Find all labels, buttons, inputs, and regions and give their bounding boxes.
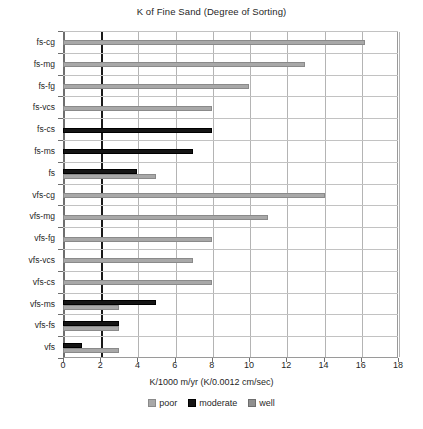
y-axis-label-vfs-fs: vfs-fs bbox=[35, 320, 55, 330]
x-axis-labels: 024681012141618 bbox=[0, 360, 423, 374]
legend-swatch-poor bbox=[148, 399, 156, 407]
bar-vfs-cs-poor bbox=[63, 280, 212, 285]
bar-fs-vcs-poor bbox=[63, 106, 212, 111]
x-axis-label-10: 10 bbox=[244, 360, 254, 370]
bar-vfs-fg-poor bbox=[63, 237, 212, 242]
chart-legend: poormoderatewell bbox=[0, 398, 423, 408]
category-separator bbox=[63, 118, 398, 119]
category-separator bbox=[63, 227, 398, 228]
y-axis-label-fs-fg: fs-fg bbox=[38, 81, 55, 91]
bar-fs-poor bbox=[63, 174, 156, 179]
bar-vfs-mg-poor bbox=[63, 215, 268, 220]
category-separator bbox=[63, 162, 398, 163]
y-axis-label-fs-cs: fs-cs bbox=[37, 124, 55, 134]
legend-label-poor: poor bbox=[159, 398, 177, 408]
category-separator bbox=[63, 205, 398, 206]
y-tick bbox=[58, 75, 63, 76]
y-axis-label-fs-vcs: fs-vcs bbox=[33, 102, 55, 112]
category-separator bbox=[63, 249, 398, 250]
y-tick bbox=[58, 162, 63, 163]
bar-fs-cg-poor bbox=[63, 40, 365, 45]
y-tick bbox=[58, 184, 63, 185]
x-axis-label-18: 18 bbox=[393, 360, 403, 370]
gridline-18 bbox=[399, 32, 400, 357]
y-tick bbox=[58, 140, 63, 141]
y-axis-label-vfs-cs: vfs-cs bbox=[33, 277, 55, 287]
bar-vfs-cg-poor bbox=[63, 193, 325, 198]
category-separator bbox=[63, 53, 398, 54]
category-separator bbox=[63, 140, 398, 141]
category-separator bbox=[63, 75, 398, 76]
y-tick bbox=[58, 293, 63, 294]
y-axis-label-vfs-ms: vfs-ms bbox=[30, 299, 55, 309]
y-axis-label-vfs: vfs bbox=[44, 342, 55, 352]
y-tick bbox=[58, 31, 63, 32]
category-separator bbox=[63, 96, 398, 97]
chart-figure: K of Fine Sand (Degree of Sorting) fs-cg… bbox=[0, 0, 423, 429]
bar-vfs-fs-poor bbox=[63, 326, 119, 331]
legend-label-moderate: moderate bbox=[199, 398, 237, 408]
legend-item-moderate[interactable]: moderate bbox=[188, 398, 237, 408]
y-tick bbox=[58, 118, 63, 119]
category-separator bbox=[63, 293, 398, 294]
y-tick bbox=[58, 227, 63, 228]
legend-item-well[interactable]: well bbox=[248, 398, 275, 408]
x-axis-label-12: 12 bbox=[281, 360, 291, 370]
y-tick bbox=[58, 205, 63, 206]
y-axis-label-fs-mg: fs-mg bbox=[34, 59, 55, 69]
y-axis-label-fs: fs bbox=[48, 168, 55, 178]
y-tick bbox=[58, 336, 63, 337]
x-axis-label-6: 6 bbox=[172, 360, 177, 370]
legend-label-well: well bbox=[259, 398, 275, 408]
legend-swatch-well bbox=[248, 399, 256, 407]
x-axis-label-0: 0 bbox=[60, 360, 65, 370]
y-axis-label-vfs-mg: vfs-mg bbox=[30, 211, 56, 221]
y-axis: fs-cgfs-mgfs-fgfs-vcsfs-csfs-msfsvfs-cgv… bbox=[0, 31, 63, 358]
y-axis-label-vfs-cg: vfs-cg bbox=[32, 190, 55, 200]
bar-vfs-ms-poor bbox=[63, 305, 119, 310]
bar-fs-cs-moderate bbox=[63, 128, 212, 133]
bar-fs-mg-poor bbox=[63, 62, 305, 67]
legend-item-poor[interactable]: poor bbox=[148, 398, 177, 408]
y-tick bbox=[58, 314, 63, 315]
y-tick bbox=[58, 249, 63, 250]
bars-layer bbox=[63, 31, 398, 358]
x-axis-title: K/1000 m/yr (K/0.0012 cm/sec) bbox=[0, 377, 423, 387]
chart-title: K of Fine Sand (Degree of Sorting) bbox=[0, 6, 423, 17]
x-axis-label-8: 8 bbox=[209, 360, 214, 370]
category-separator bbox=[63, 314, 398, 315]
category-separator bbox=[63, 31, 398, 32]
category-separator bbox=[63, 184, 398, 185]
legend-swatch-moderate bbox=[188, 399, 196, 407]
bar-fs-ms-moderate bbox=[63, 149, 193, 154]
category-separator bbox=[63, 271, 398, 272]
y-axis-label-vfs-vcs: vfs-vcs bbox=[29, 255, 55, 265]
x-axis-label-14: 14 bbox=[319, 360, 329, 370]
bar-fs-fg-poor bbox=[63, 84, 249, 89]
bar-vfs-poor bbox=[63, 348, 119, 353]
x-axis-label-4: 4 bbox=[135, 360, 140, 370]
category-separator bbox=[63, 336, 398, 337]
y-tick bbox=[58, 53, 63, 54]
y-tick bbox=[58, 271, 63, 272]
y-axis-label-vfs-fg: vfs-fg bbox=[34, 233, 55, 243]
bar-vfs-vcs-poor bbox=[63, 258, 193, 263]
y-axis-label-fs-ms: fs-ms bbox=[34, 146, 55, 156]
y-tick bbox=[58, 96, 63, 97]
x-axis-label-16: 16 bbox=[356, 360, 366, 370]
y-axis-label-fs-cg: fs-cg bbox=[37, 37, 55, 47]
x-axis-label-2: 2 bbox=[98, 360, 103, 370]
